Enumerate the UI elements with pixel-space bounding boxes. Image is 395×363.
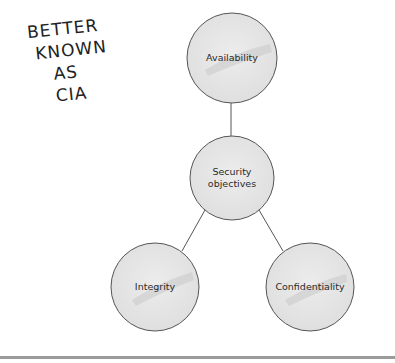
diagram-canvas: Availability Security objectives Integri… bbox=[0, 0, 395, 363]
availability-label: Availability bbox=[187, 52, 277, 64]
confidentiality-label: Confidentiality bbox=[266, 281, 354, 293]
security-objectives-label: Security objectives bbox=[190, 166, 274, 190]
bottom-divider bbox=[0, 356, 395, 359]
edge-integrity bbox=[182, 210, 205, 251]
handwritten-annotation: BETTER KNOWN AS CIA bbox=[20, 11, 139, 110]
integrity-label: Integrity bbox=[111, 281, 199, 293]
security-objectives-label-line1: Security bbox=[190, 166, 274, 178]
security-objectives-label-line2: objectives bbox=[190, 178, 274, 190]
edge-confidentiality bbox=[259, 210, 283, 251]
